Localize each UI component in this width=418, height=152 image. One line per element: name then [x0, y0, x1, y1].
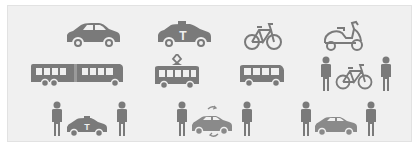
- car-icon: Car: [65, 22, 121, 50]
- bike-sharing-icon: Bike sharing: [320, 56, 392, 92]
- taxi-glyph: T: [179, 29, 187, 43]
- taxi-icon: Taxi T: [156, 20, 212, 50]
- bicycle-icon: Bicycle: [244, 21, 282, 51]
- carpooling-icon: Carpooling: [300, 101, 378, 137]
- scooter-icon: Scooter: [322, 19, 364, 53]
- articulated-bus-icon: Articulated bus: [29, 62, 125, 88]
- bus-icon: Bus: [238, 63, 286, 89]
- taxi-sharing-icon: Taxi sharing T: [51, 101, 129, 137]
- car-sharing-icon: Car sharing: [176, 101, 254, 137]
- transport-icon-panel: Car Taxi T Bicycle: [7, 5, 412, 142]
- tram-icon: Tram: [152, 54, 202, 90]
- taxi-sharing-glyph: T: [84, 122, 90, 132]
